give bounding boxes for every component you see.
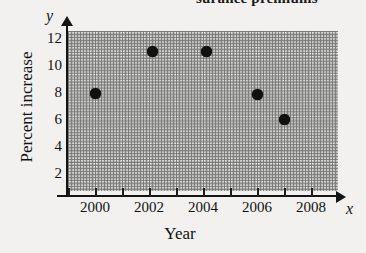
x-tick-mark — [176, 188, 178, 196]
data-point — [279, 114, 290, 125]
x-tick-mark — [95, 188, 97, 196]
x-tick-mark — [68, 188, 70, 196]
cropped-header-text: surance premiums — [0, 0, 366, 11]
x-axis-variable-label: x — [346, 200, 353, 218]
y-axis-title: Percent increase — [17, 17, 37, 197]
x-axis-line — [57, 195, 340, 197]
data-point — [252, 89, 263, 100]
x-tick-mark — [122, 188, 124, 196]
y-axis-arrow-icon — [61, 16, 73, 26]
chart-figure: surance premiums 12 10 8 6 4 2 — [0, 0, 366, 253]
x-tick-mark — [311, 188, 313, 196]
data-point — [201, 46, 212, 57]
x-tick-mark — [284, 188, 286, 196]
x-tick-label: 2000 — [65, 200, 125, 215]
x-tick-label: 2004 — [173, 200, 233, 215]
data-point — [90, 88, 101, 99]
y-axis-variable-label: y — [46, 7, 53, 25]
x-tick-mark — [230, 188, 232, 196]
plot-area — [68, 31, 338, 191]
x-tick-label: 2002 — [119, 200, 179, 215]
data-point — [147, 46, 158, 57]
x-tick-label: 2006 — [227, 200, 287, 215]
x-tick-mark — [203, 188, 205, 196]
x-tick-mark — [257, 188, 259, 196]
y-axis-line — [66, 24, 68, 196]
x-tick-label: 2008 — [281, 200, 341, 215]
header-text-label: surance premiums — [196, 0, 318, 7]
x-axis-title: Year — [120, 224, 240, 244]
x-tick-mark — [149, 188, 151, 196]
